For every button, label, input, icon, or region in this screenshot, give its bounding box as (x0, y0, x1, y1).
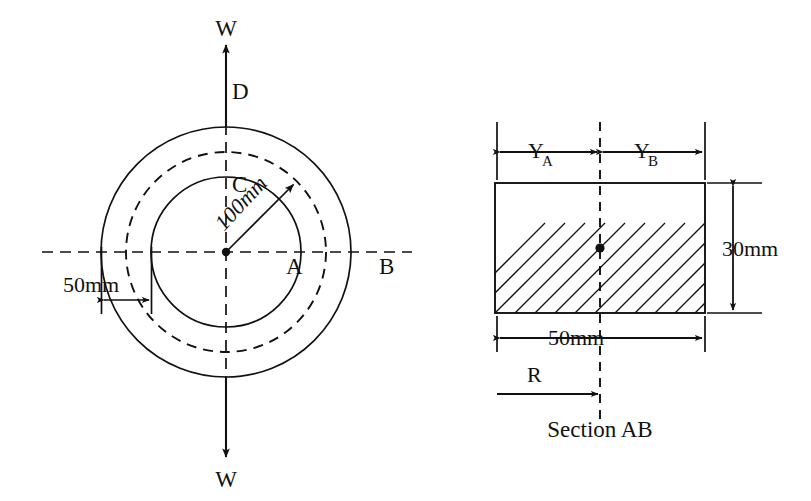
ring-plan-view: W W D C A B 100mm 50mm (42, 16, 412, 492)
load-label-bottom: W (215, 467, 237, 492)
load-label-top: W (215, 16, 237, 41)
point-label-d: D (232, 79, 249, 104)
ya-dim-subscript: A (542, 153, 553, 169)
centroid-point (595, 243, 604, 252)
point-label-a: A (286, 254, 303, 279)
engineering-diagram-svg: W W D C A B 100mm 50mm (0, 0, 811, 501)
thickness-dim-label: 50mm (63, 272, 119, 297)
section-caption: Section AB (547, 417, 652, 442)
height-dim-label: 30mm (722, 236, 778, 261)
diagram-canvas: W W D C A B 100mm 50mm (0, 0, 811, 501)
radius-r-label: R (527, 362, 542, 387)
yb-dim-subscript: B (648, 153, 658, 169)
point-label-b: B (379, 254, 394, 279)
width-dim-label: 50mm (548, 325, 604, 350)
section-ab-view: Y A Y B (415, 122, 805, 442)
